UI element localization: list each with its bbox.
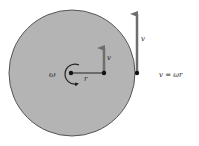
- omega-label: ω: [49, 70, 56, 79]
- edge-point: [135, 71, 139, 75]
- inner-point: [102, 71, 106, 75]
- rotating-disk-diagram: ω r v v v = ωr: [0, 0, 199, 146]
- equation-label: v = ωr: [159, 71, 183, 79]
- edge-velocity-label: v: [141, 35, 145, 43]
- center-point: [69, 71, 73, 75]
- inner-velocity-label: v: [107, 54, 111, 62]
